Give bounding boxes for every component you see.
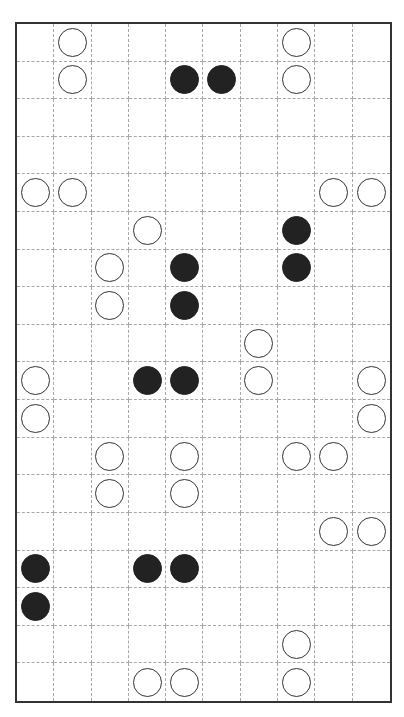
- grid-cell[interactable]: [278, 551, 315, 589]
- grid-cell[interactable]: [278, 626, 315, 664]
- grid-cell[interactable]: [54, 400, 91, 438]
- grid-cell[interactable]: [203, 588, 240, 626]
- grid-cell[interactable]: [129, 287, 166, 325]
- grid-cell[interactable]: [315, 663, 352, 701]
- grid-cell[interactable]: [353, 287, 390, 325]
- grid-cell[interactable]: [166, 588, 203, 626]
- grid-cell[interactable]: [315, 551, 352, 589]
- grid-cell[interactable]: [166, 24, 203, 62]
- grid-cell[interactable]: [241, 212, 278, 250]
- grid-cell[interactable]: [353, 663, 390, 701]
- grid-cell[interactable]: [278, 362, 315, 400]
- grid-cell[interactable]: [17, 513, 54, 551]
- grid-cell[interactable]: [92, 325, 129, 363]
- grid-cell[interactable]: [129, 588, 166, 626]
- grid-cell[interactable]: [353, 137, 390, 175]
- grid-cell[interactable]: [315, 174, 352, 212]
- grid-cell[interactable]: [241, 137, 278, 175]
- grid-cell[interactable]: [129, 174, 166, 212]
- grid-cell[interactable]: [353, 438, 390, 476]
- grid-cell[interactable]: [353, 99, 390, 137]
- grid-cell[interactable]: [54, 663, 91, 701]
- grid-cell[interactable]: [54, 325, 91, 363]
- grid-cell[interactable]: [129, 513, 166, 551]
- grid-cell[interactable]: [241, 250, 278, 288]
- grid-cell[interactable]: [278, 287, 315, 325]
- grid-cell[interactable]: [315, 475, 352, 513]
- grid-cell[interactable]: [315, 99, 352, 137]
- grid-cell[interactable]: [353, 626, 390, 664]
- grid-cell[interactable]: [315, 212, 352, 250]
- grid-cell[interactable]: [203, 438, 240, 476]
- grid-cell[interactable]: [92, 24, 129, 62]
- grid-cell[interactable]: [278, 588, 315, 626]
- grid-cell[interactable]: [17, 551, 54, 589]
- grid-cell[interactable]: [166, 137, 203, 175]
- grid-cell[interactable]: [129, 250, 166, 288]
- grid-cell[interactable]: [17, 663, 54, 701]
- grid-cell[interactable]: [166, 663, 203, 701]
- grid-cell[interactable]: [92, 588, 129, 626]
- grid-cell[interactable]: [278, 325, 315, 363]
- grid-cell[interactable]: [54, 174, 91, 212]
- grid-cell[interactable]: [17, 99, 54, 137]
- grid-cell[interactable]: [241, 663, 278, 701]
- grid-cell[interactable]: [241, 24, 278, 62]
- grid-cell[interactable]: [241, 626, 278, 664]
- grid-cell[interactable]: [353, 250, 390, 288]
- grid-cell[interactable]: [54, 626, 91, 664]
- grid-cell[interactable]: [353, 24, 390, 62]
- grid-cell[interactable]: [241, 551, 278, 589]
- grid-cell[interactable]: [203, 137, 240, 175]
- grid-cell[interactable]: [315, 400, 352, 438]
- grid-cell[interactable]: [166, 475, 203, 513]
- grid-cell[interactable]: [129, 551, 166, 589]
- grid-cell[interactable]: [203, 513, 240, 551]
- grid-cell[interactable]: [54, 475, 91, 513]
- grid-cell[interactable]: [166, 513, 203, 551]
- grid-cell[interactable]: [17, 250, 54, 288]
- grid-cell[interactable]: [278, 137, 315, 175]
- grid-cell[interactable]: [129, 438, 166, 476]
- grid-cell[interactable]: [166, 362, 203, 400]
- grid-cell[interactable]: [278, 62, 315, 100]
- grid-cell[interactable]: [92, 513, 129, 551]
- grid-cell[interactable]: [54, 588, 91, 626]
- grid-cell[interactable]: [203, 287, 240, 325]
- grid-cell[interactable]: [54, 24, 91, 62]
- grid-cell[interactable]: [241, 99, 278, 137]
- grid-cell[interactable]: [241, 438, 278, 476]
- grid-cell[interactable]: [92, 287, 129, 325]
- grid-cell[interactable]: [278, 24, 315, 62]
- grid-cell[interactable]: [54, 551, 91, 589]
- grid-cell[interactable]: [353, 362, 390, 400]
- grid-cell[interactable]: [353, 588, 390, 626]
- grid-cell[interactable]: [241, 475, 278, 513]
- grid-cell[interactable]: [315, 325, 352, 363]
- grid-cell[interactable]: [92, 438, 129, 476]
- grid-cell[interactable]: [203, 663, 240, 701]
- grid-cell[interactable]: [17, 325, 54, 363]
- grid-cell[interactable]: [92, 551, 129, 589]
- grid-cell[interactable]: [353, 325, 390, 363]
- grid-cell[interactable]: [353, 513, 390, 551]
- grid-cell[interactable]: [241, 174, 278, 212]
- grid-cell[interactable]: [241, 62, 278, 100]
- grid-cell[interactable]: [92, 62, 129, 100]
- grid-cell[interactable]: [54, 99, 91, 137]
- grid-cell[interactable]: [278, 438, 315, 476]
- grid-cell[interactable]: [203, 551, 240, 589]
- grid-cell[interactable]: [92, 362, 129, 400]
- grid-cell[interactable]: [129, 362, 166, 400]
- grid-cell[interactable]: [203, 626, 240, 664]
- grid-cell[interactable]: [315, 250, 352, 288]
- grid-cell[interactable]: [129, 325, 166, 363]
- grid-cell[interactable]: [17, 438, 54, 476]
- grid-cell[interactable]: [17, 588, 54, 626]
- grid-cell[interactable]: [92, 174, 129, 212]
- grid-cell[interactable]: [241, 588, 278, 626]
- grid-cell[interactable]: [92, 475, 129, 513]
- grid-cell[interactable]: [278, 663, 315, 701]
- grid-cell[interactable]: [17, 475, 54, 513]
- grid-cell[interactable]: [203, 212, 240, 250]
